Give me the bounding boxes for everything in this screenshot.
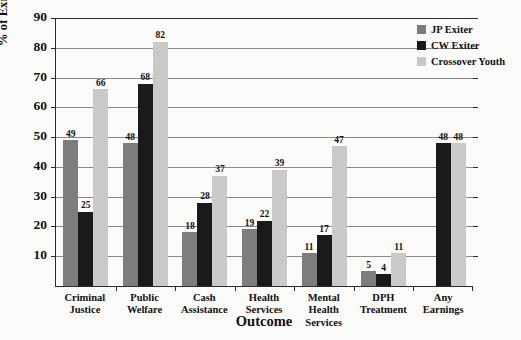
bar-slot: 22 (257, 18, 272, 286)
legend-item[interactable]: Crossover Youth (417, 56, 505, 67)
bar-value-label: 17 (319, 225, 329, 235)
x-tick-mark (235, 286, 236, 291)
y-tick-mark-right (473, 256, 478, 257)
y-tick-mark-right (473, 226, 478, 227)
bar[interactable]: 22 (257, 221, 272, 287)
bar[interactable]: 11 (391, 253, 406, 286)
bar-group: 486882 (116, 18, 176, 286)
y-tick-mark-right (473, 167, 478, 168)
bar[interactable]: 19 (242, 229, 257, 286)
bar-value-label: 25 (81, 201, 91, 211)
bar-value-label: 66 (96, 79, 106, 89)
legend-swatch-icon (417, 57, 426, 66)
legend-label: CW Exiter (431, 40, 480, 51)
bar[interactable]: 28 (197, 203, 212, 286)
bar-group: 182837 (175, 18, 235, 286)
x-tick-mark (472, 286, 473, 291)
bar-group: 192239 (235, 18, 295, 286)
x-tick-mark (175, 286, 176, 291)
bar-group: 492566 (56, 18, 116, 286)
bar[interactable]: 48 (451, 143, 466, 286)
y-tick-label: 50 (34, 128, 48, 144)
bar-value-label: 82 (156, 31, 166, 41)
legend: JP ExiterCW ExiterCrossover Youth (417, 24, 505, 67)
bar-value-label: 11 (394, 243, 403, 253)
bar-value-label: 49 (66, 130, 76, 140)
legend-swatch-icon (417, 25, 426, 34)
y-tick-mark-right (473, 18, 478, 19)
y-tick-mark-right (473, 107, 478, 108)
bar-value-label: 48 (454, 133, 464, 143)
bar[interactable]: 25 (78, 212, 93, 286)
bar[interactable]: 11 (302, 253, 317, 286)
y-axis-title: % of Exiters with outcome (0, 0, 11, 46)
bar-slot: 39 (272, 18, 287, 286)
bar-slot: 11 (302, 18, 317, 286)
bar[interactable]: 17 (317, 235, 332, 286)
bar-value-label: 28 (200, 192, 210, 202)
bar-slot: 4 (376, 18, 391, 286)
bar-value-label: 37 (215, 165, 225, 175)
bar-groups: 49256648688218283719223911174754114848 (56, 18, 473, 286)
y-tick-label: 90 (34, 9, 48, 25)
bar-value-label: 11 (305, 243, 314, 253)
bar[interactable]: 18 (182, 232, 197, 286)
bar-slot: 17 (317, 18, 332, 286)
plot-area: 102030405060708090 492566486882182837192… (55, 18, 473, 287)
bar[interactable]: 82 (153, 42, 168, 286)
y-tick-mark-right (473, 78, 478, 79)
bar-value-label: 39 (275, 159, 285, 169)
bar-slot: 18 (182, 18, 197, 286)
y-tick-label: 60 (34, 98, 48, 114)
bar-value-label: 19 (245, 219, 255, 229)
bar-slot: 68 (138, 18, 153, 286)
bar[interactable]: 48 (123, 143, 138, 286)
bar-value-label: 22 (260, 210, 270, 220)
bar[interactable]: 37 (212, 176, 227, 286)
bar-slot: 82 (153, 18, 168, 286)
legend-label: JP Exiter (431, 24, 473, 35)
x-tick-mark (116, 286, 117, 291)
legend-label: Crossover Youth (431, 56, 505, 67)
legend-swatch-icon (417, 41, 426, 50)
bar-group: 111747 (294, 18, 354, 286)
bar[interactable]: 48 (436, 143, 451, 286)
bar[interactable]: 68 (138, 84, 153, 286)
bar[interactable]: 5 (361, 271, 376, 286)
bar-slot: 11 (391, 18, 406, 286)
bar-value-label: 4 (381, 264, 386, 274)
bar-value-label: 48 (439, 133, 449, 143)
y-tick-label: 20 (34, 217, 48, 233)
y-tick-label: 80 (34, 39, 48, 55)
y-tick-label: 30 (34, 188, 48, 204)
y-tick-label: 10 (34, 247, 48, 263)
legend-item[interactable]: CW Exiter (417, 40, 505, 51)
bar-value-label: 18 (185, 222, 195, 232)
x-tick-mark (354, 286, 355, 291)
bar[interactable]: 47 (332, 146, 347, 286)
x-tick-mark (413, 286, 414, 291)
legend-item[interactable]: JP Exiter (417, 24, 505, 35)
bar-slot: 37 (212, 18, 227, 286)
bar-value-label: 5 (366, 261, 371, 271)
bar[interactable]: 39 (272, 170, 287, 286)
bar-chart: % of Exiters with outcome 10203040506070… (0, 0, 521, 340)
x-tick-mark (294, 286, 295, 291)
bar-value-label: 47 (334, 136, 344, 146)
bar[interactable]: 4 (376, 274, 391, 286)
bar-value-label: 68 (141, 73, 151, 83)
bar-slot: 66 (93, 18, 108, 286)
bar-slot: 48 (123, 18, 138, 286)
bar-value-label: 48 (126, 133, 136, 143)
y-tick-mark-right (473, 137, 478, 138)
y-tick-label: 70 (34, 69, 48, 85)
y-tick-label: 40 (34, 158, 48, 174)
y-tick-mark-right (473, 197, 478, 198)
bar-slot: 19 (242, 18, 257, 286)
bar-slot: 49 (63, 18, 78, 286)
bar[interactable]: 49 (63, 140, 78, 286)
bar-group: 5411 (354, 18, 414, 286)
x-axis-title: Outcome (55, 313, 473, 330)
bar[interactable]: 66 (93, 89, 108, 286)
bar-slot: 47 (332, 18, 347, 286)
